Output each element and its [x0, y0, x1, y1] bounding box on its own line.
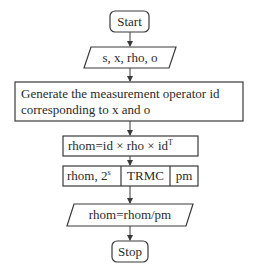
generate-line1: Generate the measurement operator id	[21, 86, 220, 101]
trmc-left-superscript: s	[107, 168, 110, 177]
trmc-node: rhom, 2s TRMC pm	[63, 166, 198, 186]
compute-node: rhom=id × rho × idT	[63, 136, 198, 156]
generate-line2: corresponding to x and o	[21, 102, 150, 117]
trmc-left-label: rhom, 2	[67, 168, 107, 183]
trmc-right-label: pm	[176, 168, 193, 183]
start-label: Start	[117, 14, 142, 29]
output-label: rhom=rhom/pm	[89, 207, 171, 222]
output-node: rhom=rhom/pm	[67, 204, 193, 226]
stop-node: Stop	[112, 241, 148, 262]
trmc-middle-label: TRMC	[127, 168, 164, 183]
svg-text:rhom=id × rho × idT: rhom=id × rho × idT	[68, 138, 173, 153]
compute-superscript: T	[168, 138, 173, 147]
input-label: s, x, rho, o	[103, 50, 158, 65]
flowchart: Start s, x, rho, o Generate the measurem…	[0, 0, 256, 278]
svg-text:rhom, 2s: rhom, 2s	[67, 168, 111, 183]
compute-label: rhom=id × rho × id	[68, 138, 168, 153]
start-node: Start	[110, 11, 149, 32]
generate-node: Generate the measurement operator id cor…	[15, 82, 243, 121]
input-node: s, x, rho, o	[84, 47, 176, 68]
stop-label: Stop	[118, 244, 142, 259]
